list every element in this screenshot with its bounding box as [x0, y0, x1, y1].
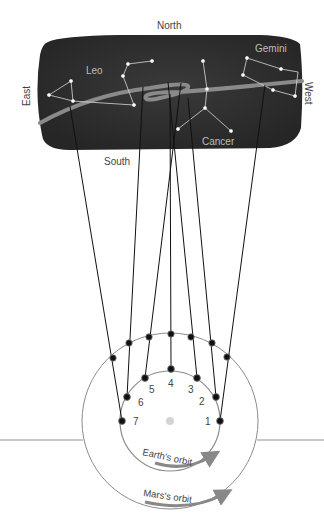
- position-label-6: 6: [138, 397, 144, 408]
- label-south: South: [104, 156, 130, 167]
- label-west: West: [303, 82, 314, 105]
- label-east: East: [21, 86, 32, 106]
- position-label-1: 1: [205, 416, 211, 427]
- label-cancer: Cancer: [202, 136, 235, 147]
- label-gemini: Gemini: [255, 43, 287, 54]
- sun: [166, 417, 174, 425]
- position-label-5: 5: [149, 384, 155, 395]
- label-north: North: [157, 20, 181, 31]
- label-leo: Leo: [86, 65, 103, 76]
- position-label-7: 7: [133, 416, 139, 427]
- position-label-4: 4: [168, 378, 174, 389]
- position-label-3: 3: [188, 384, 194, 395]
- position-label-2: 2: [199, 396, 205, 407]
